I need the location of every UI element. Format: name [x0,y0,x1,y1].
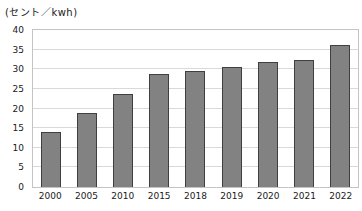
bar-2000 [41,132,61,187]
bar-2005 [77,113,97,187]
bar-slot [322,30,358,187]
y-tick-label: 35 [13,45,24,55]
bar-slot [33,30,69,187]
bar-2015 [149,74,169,187]
x-tick-label: 2018 [177,191,213,201]
bar-series [33,30,358,187]
y-tick-label: 10 [13,143,24,153]
bar-2018 [185,71,205,187]
y-tick-label: 40 [13,25,24,35]
bar-2010 [113,94,133,187]
bar-slot [69,30,105,187]
x-tick-label: 2000 [32,191,68,201]
x-tick-label: 2020 [250,191,286,201]
y-tick-label: 30 [13,64,24,74]
x-tick-label: 2010 [105,191,141,201]
x-tick-label: 2015 [141,191,177,201]
bar-slot [250,30,286,187]
bar-slot [105,30,141,187]
bar-slot [141,30,177,187]
plot-area [32,29,359,188]
x-tick-label: 2019 [214,191,250,201]
y-tick-label: 0 [18,182,24,192]
bar-chart: (セント／kwh) 0510152025303540 2000200520102… [0,0,362,211]
bar-slot [286,30,322,187]
bar-slot [214,30,250,187]
y-tick-label: 5 [18,162,24,172]
x-axis: 200020052010201520182019202020212022 [32,191,359,201]
y-tick-label: 25 [13,84,24,94]
x-tick-label: 2005 [68,191,104,201]
bar-slot [177,30,213,187]
bar-2020 [258,62,278,187]
x-tick-label: 2021 [286,191,322,201]
bar-2019 [222,67,242,187]
y-tick-label: 15 [13,123,24,133]
bar-2022 [330,45,350,187]
x-tick-label: 2022 [323,191,359,201]
y-axis: 0510152025303540 [0,0,28,211]
y-tick-label: 20 [13,104,24,114]
bar-2021 [294,60,314,187]
